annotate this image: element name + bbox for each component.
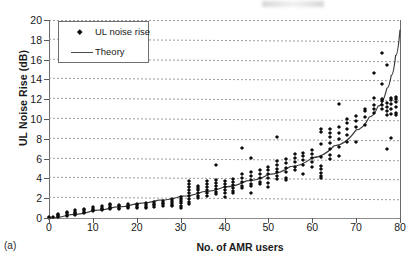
legend-entry-theory: Theory xyxy=(59,42,148,62)
data-point xyxy=(64,213,68,217)
legend-label: UL noise rise xyxy=(95,26,150,37)
y-tick-mark xyxy=(44,40,49,41)
y-tick-mark xyxy=(44,139,49,140)
line-marker-icon xyxy=(69,42,95,62)
x-tick-mark xyxy=(137,218,138,223)
y-tick-label: 0 xyxy=(20,212,42,224)
scan-artifact xyxy=(262,1,324,7)
x-tick-mark xyxy=(49,218,50,223)
subfigure-label: (a) xyxy=(4,240,16,251)
y-tick-mark xyxy=(44,119,49,120)
x-axis-label: No. of AMR users xyxy=(140,241,340,253)
y-tick-mark xyxy=(44,79,49,80)
y-tick-label: 4 xyxy=(20,172,42,184)
y-tick-label: 10 xyxy=(20,113,42,125)
figure-panel: UL Noise Rise (dB) No. of AMR users (a) … xyxy=(0,0,419,261)
y-tick-label: 16 xyxy=(20,54,42,66)
y-tick-label: 6 xyxy=(20,153,42,165)
plot-area: UL noise rise Theory xyxy=(49,20,400,218)
x-tick-mark xyxy=(225,218,226,223)
x-tick-mark xyxy=(268,218,269,223)
legend-box: UL noise rise Theory xyxy=(58,21,149,63)
y-tick-mark xyxy=(44,20,49,21)
x-tick-mark xyxy=(356,218,357,223)
y-tick-label: 14 xyxy=(20,73,42,85)
y-tick-label: 12 xyxy=(20,93,42,105)
legend-label: Theory xyxy=(95,46,125,57)
plot-right-border xyxy=(400,20,401,218)
diamond-marker-icon xyxy=(69,22,95,42)
y-tick-label: 18 xyxy=(20,34,42,46)
y-tick-mark xyxy=(44,178,49,179)
x-tick-mark xyxy=(93,218,94,223)
x-tick-mark xyxy=(400,218,401,223)
y-tick-label: 8 xyxy=(20,133,42,145)
y-tick-mark xyxy=(44,99,49,100)
y-tick-mark xyxy=(44,60,49,61)
y-tick-label: 20 xyxy=(20,14,42,26)
y-tick-label: 2 xyxy=(20,192,42,204)
legend-entry-ul-noise-rise: UL noise rise xyxy=(59,22,148,42)
y-tick-mark xyxy=(44,159,49,160)
y-tick-mark xyxy=(44,198,49,199)
x-tick-mark xyxy=(181,218,182,223)
x-tick-mark xyxy=(312,218,313,223)
